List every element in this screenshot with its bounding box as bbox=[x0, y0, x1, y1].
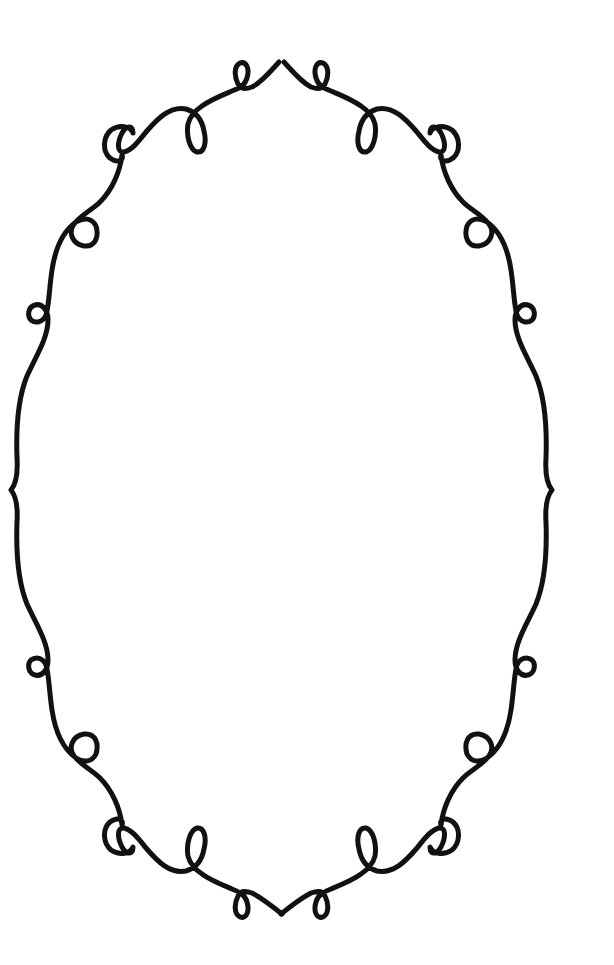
frame-right-half bbox=[281, 62, 552, 917]
ornamental-oval-frame-icon bbox=[0, 0, 614, 965]
canvas bbox=[0, 0, 614, 965]
frame-left-half bbox=[11, 62, 282, 917]
